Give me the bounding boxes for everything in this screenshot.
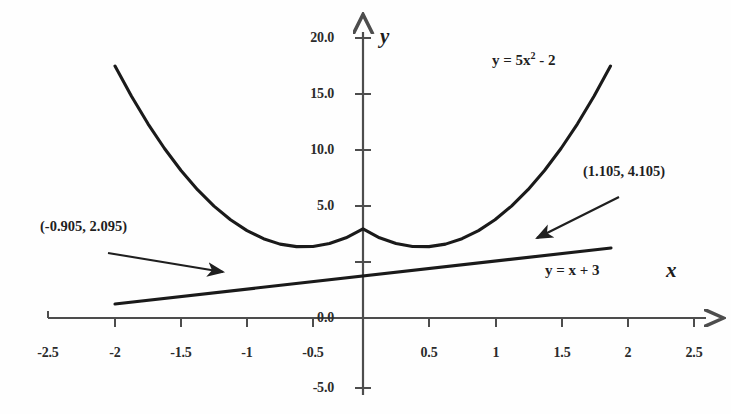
x-axis bbox=[48, 311, 706, 327]
chart-canvas: 20.0 15.0 10.0 5.0 0.0 -5.0 -2.5 -2 -1.5… bbox=[0, 0, 731, 414]
x-tick-label-2: 2 bbox=[625, 345, 632, 361]
y-tick-label-0: 0.0 bbox=[272, 310, 334, 326]
x-tick-label-1p5: 1.5 bbox=[554, 345, 571, 361]
y-axis-label: y bbox=[380, 24, 389, 49]
right-annotation-arrow bbox=[537, 197, 619, 238]
y-tick-label-5: 5.0 bbox=[272, 198, 334, 214]
x-tick-label-neg2: -2 bbox=[109, 345, 120, 361]
parabola-equation-base: y = 5x bbox=[492, 52, 531, 68]
y-tick-label-neg5: -5.0 bbox=[272, 380, 334, 396]
line-equation-label: y = x + 3 bbox=[545, 262, 600, 279]
x-tick-label-1: 1 bbox=[493, 345, 500, 361]
x-axis-label: x bbox=[666, 258, 677, 283]
x-tick-label-neg1: -1 bbox=[241, 345, 252, 361]
x-tick-label-neg0p5: -0.5 bbox=[302, 345, 323, 361]
x-tick-label-neg2p5: -2.5 bbox=[37, 345, 58, 361]
y-tick-label-20: 20.0 bbox=[272, 30, 334, 46]
left-intersection-label: (-0.905, 2.095) bbox=[40, 218, 127, 235]
y-axis bbox=[355, 32, 371, 395]
right-intersection-label: (1.105, 4.105) bbox=[583, 163, 665, 180]
parabola-equation-label: y = 5x2 - 2 bbox=[492, 50, 556, 69]
parabola-equation-tail: - 2 bbox=[536, 52, 556, 68]
y-tick-label-10: 10.0 bbox=[272, 142, 334, 158]
x-tick-label-0p5: 0.5 bbox=[421, 345, 438, 361]
x-tick-label-2p5: 2.5 bbox=[686, 345, 703, 361]
x-tick-label-neg1p5: -1.5 bbox=[170, 345, 191, 361]
y-tick-label-15: 15.0 bbox=[272, 86, 334, 102]
x-axis-ticks bbox=[115, 318, 694, 327]
left-annotation-arrow bbox=[108, 253, 223, 272]
